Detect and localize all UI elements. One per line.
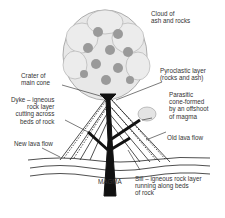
- label-dyke: Dyke – igneous rock layer cutting across…: [11, 96, 54, 125]
- label-crater: Crater of main cone: [21, 72, 50, 86]
- label-magma: MAGMA: [98, 178, 122, 185]
- label-old-lava: Old lava flow: [167, 134, 203, 141]
- label-sill: Sill – igneous rock layer running along …: [135, 175, 202, 197]
- volcano-cone: [60, 96, 170, 162]
- label-parasitic: Parasitic cone-formed by an offshoot of …: [169, 91, 208, 120]
- label-new-lava: New lava flow: [14, 140, 53, 147]
- label-pyroclastic: Pyroclastic layer (rocks and ash): [160, 67, 206, 81]
- label-cloud: Cloud of ash and rocks: [151, 10, 190, 24]
- ash-cloud: [63, 10, 150, 100]
